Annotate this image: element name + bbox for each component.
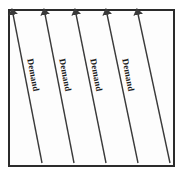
arrow-layer <box>0 0 183 179</box>
arrow-5 <box>138 14 170 163</box>
demand-curves-figure: DemandDemandDemandDemand <box>0 0 183 179</box>
